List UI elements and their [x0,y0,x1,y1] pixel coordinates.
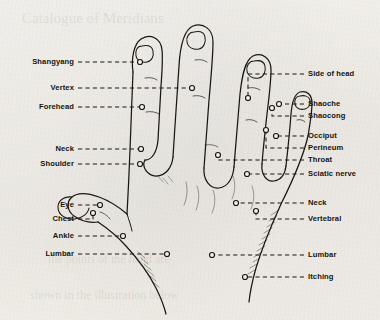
middle-fingernail [187,32,205,50]
acupoint-dot-shaoche[interactable] [277,102,282,107]
acupoint-dot-neck-left[interactable] [139,147,144,152]
palm-base-left [127,214,132,231]
label-shangyang: Shangyang [32,58,74,66]
crease-ring-2 [246,120,257,122]
acupoint-dot-lumbar-left[interactable] [165,252,170,257]
crease-palm-a [184,182,187,205]
crease-little [297,120,305,122]
label-perineum: Perineum [308,144,343,152]
label-lumbar-right: Lumbar [308,251,336,259]
leader-perineum [266,130,304,148]
acupoint-dot-eye[interactable] [98,203,103,208]
label-shaocong: Shaocong [308,112,346,120]
hand-outline-group [58,25,312,314]
label-eye: Eye [60,201,74,209]
shading-hatch-web [158,176,173,184]
middle-finger-outline [173,25,213,168]
acupoint-dots-group [91,60,282,280]
acupoint-dot-shaocong[interactable] [270,106,275,111]
acupoint-dot-shangyang[interactable] [138,60,143,65]
crease-index-2 [146,112,159,114]
ring-fingernail [247,61,265,79]
crease-index [145,78,157,80]
label-chest: Chest [52,215,74,223]
valley-middle-ring [204,167,234,188]
acupoint-dot-forehead[interactable] [140,105,145,110]
leader-vertebral [256,211,304,219]
leader-throat [218,155,304,160]
label-side-of-head: Side of head [308,70,354,78]
acupoint-dot-occiput[interactable] [274,134,279,139]
leader-lines-group [78,62,304,277]
crease-knuckle [205,145,218,147]
acupoint-dot-side-of-head[interactable] [246,96,251,101]
acupoint-dot-shoulder[interactable] [138,162,143,167]
index-finger-outline [132,36,162,160]
index-finger-left-edge [127,72,133,214]
acupoint-dot-neck-right[interactable] [234,201,239,206]
crease-middle-2 [193,96,205,98]
acupoint-dot-throat[interactable] [216,153,221,158]
acupoint-dot-vertebral[interactable] [254,209,259,214]
acupoint-dot-lumbar-right[interactable] [210,253,215,258]
label-sciatic-nerve: Sciatic nerve [308,170,356,178]
crease-thumb [100,212,110,219]
acupoint-dot-chest[interactable] [91,211,96,216]
label-shoulder: Shoulder [40,160,74,168]
label-occiput: Occiput [308,132,337,140]
acupoint-dot-ankle[interactable] [121,234,126,239]
label-shaoche: Shaoche [308,100,340,108]
crease-ring [248,88,260,90]
acupoint-dot-vertex[interactable] [190,86,195,91]
label-neck-left: Neck [55,145,74,153]
label-vertex: Vertex [51,84,74,92]
label-neck-right: Neck [308,199,327,207]
crease-middle [195,60,207,62]
hand-acupuncture-diagram: Catalogue of Meridiansthe points of the … [0,0,380,320]
acupoint-dot-perineum[interactable] [264,128,269,133]
label-itching: Itching [308,273,334,281]
leader-side-of-head [248,74,304,98]
shading-hatch-thenar [138,252,159,287]
label-lumbar-left: Lumbar [46,250,74,258]
label-ankle: Ankle [53,232,74,240]
acupoint-dot-sciatic-nerve[interactable] [245,172,250,177]
label-throat: Throat [308,156,332,164]
acupoint-dot-itching[interactable] [243,275,248,280]
label-vertebral: Vertebral [308,215,341,223]
crease-palm-d [232,176,235,199]
crease-palm-b [196,186,199,210]
crease-palm-c [212,190,215,213]
thumb-outline [68,194,127,223]
crease-palm-e [251,186,254,209]
label-forehead: Forehead [39,103,74,111]
valley-ring-little [262,164,286,181]
